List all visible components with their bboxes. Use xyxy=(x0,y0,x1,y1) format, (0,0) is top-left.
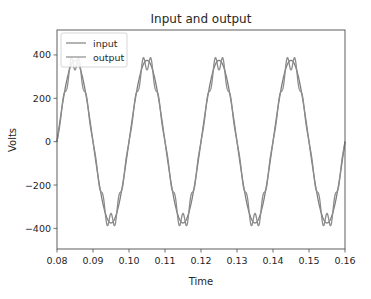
y-tick-label: −200 xyxy=(25,180,51,191)
y-axis: 4002000−200−400 xyxy=(25,49,57,233)
y-axis-label: Volts xyxy=(7,128,18,152)
x-tick-label: 0.08 xyxy=(46,255,67,266)
chart: Input and output 0.080.090.100.110.120.1… xyxy=(0,0,371,299)
legend: input output xyxy=(61,33,127,67)
legend-label-input: input xyxy=(93,38,118,49)
chart-title: Input and output xyxy=(151,12,252,26)
y-tick-label: 400 xyxy=(33,49,51,60)
legend-label-output: output xyxy=(93,52,125,63)
x-tick-label: 0.14 xyxy=(262,255,283,266)
x-tick-label: 0.16 xyxy=(334,255,355,266)
y-tick-label: 0 xyxy=(45,136,51,147)
x-axis: 0.080.090.100.110.120.130.140.150.16 xyxy=(46,249,355,266)
x-tick-label: 0.13 xyxy=(226,255,247,266)
x-tick-label: 0.09 xyxy=(82,255,103,266)
y-tick-label: 200 xyxy=(33,93,51,104)
x-axis-label: Time xyxy=(188,276,213,287)
y-tick-label: −400 xyxy=(25,223,51,234)
x-tick-label: 0.10 xyxy=(118,255,139,266)
x-tick-label: 0.11 xyxy=(154,255,175,266)
x-tick-label: 0.12 xyxy=(190,255,211,266)
x-tick-label: 0.15 xyxy=(298,255,319,266)
